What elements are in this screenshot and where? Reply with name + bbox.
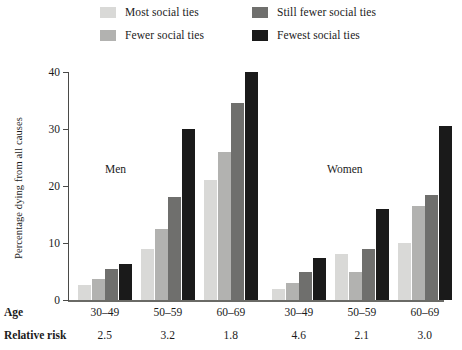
- age-cell: 60–69: [410, 306, 439, 318]
- y-axis-tick: [63, 72, 69, 73]
- bar: [412, 206, 425, 300]
- bar: [335, 254, 348, 300]
- risk-row-header: Relative risk: [4, 329, 66, 341]
- x-axis-line: [68, 300, 444, 302]
- y-axis-tick: [63, 300, 69, 301]
- y-axis-title: Percentage dying from all causes: [13, 74, 27, 302]
- relative-risk-cell: 3.2: [161, 329, 175, 341]
- age-cell: 60–69: [216, 306, 245, 318]
- legend-label: Fewer social ties: [125, 30, 204, 41]
- bar: [155, 229, 168, 300]
- y-axis-tick-label: 40: [49, 67, 61, 78]
- bar: [141, 249, 154, 300]
- legend-label: Still fewer social ties: [277, 7, 376, 18]
- relative-risk-cell: 1.8: [224, 329, 238, 341]
- bar: [349, 272, 362, 301]
- panel-label-women: Women: [327, 163, 362, 175]
- plot-area: Percentage dying from all causes 0102030…: [69, 72, 444, 300]
- bar: [376, 209, 389, 300]
- bar: [218, 152, 231, 300]
- legend-swatch-icon: [100, 7, 116, 18]
- age-row-header: Age: [4, 306, 23, 318]
- panel-label-men: Men: [105, 163, 126, 175]
- bar: [398, 243, 411, 300]
- legend-item: Fewest social ties: [252, 30, 360, 41]
- relative-risk-cell: 2.5: [98, 329, 112, 341]
- bar-group: [141, 72, 195, 300]
- legend-label: Fewest social ties: [277, 30, 360, 41]
- legend-item: Fewer social ties: [100, 30, 204, 41]
- y-axis-tick-label: 0: [54, 295, 60, 306]
- chart-figure: Most social tiesFewer social tiesStill f…: [0, 0, 462, 350]
- bar: [272, 289, 285, 300]
- bar: [425, 195, 438, 300]
- bar: [439, 126, 452, 300]
- bar: [168, 197, 181, 300]
- relative-risk-cell: 2.1: [355, 329, 369, 341]
- bar: [204, 180, 217, 300]
- legend-item: Still fewer social ties: [252, 7, 376, 18]
- age-cell: 30–49: [90, 306, 119, 318]
- legend-swatch-icon: [252, 30, 268, 41]
- legend-item: Most social ties: [100, 7, 199, 18]
- bar-group: [272, 72, 326, 300]
- y-axis-tick: [63, 243, 69, 244]
- bar: [245, 72, 258, 300]
- bar: [78, 285, 91, 300]
- bar-group: [204, 72, 258, 300]
- legend-swatch-icon: [100, 30, 116, 41]
- y-axis-tick: [63, 186, 69, 187]
- bar: [231, 103, 244, 300]
- bar: [92, 279, 105, 300]
- bar: [313, 258, 326, 300]
- legend: Most social tiesFewer social tiesStill f…: [100, 6, 450, 50]
- bar-group: [398, 72, 452, 300]
- bar: [182, 129, 195, 300]
- y-axis-tick-label: 30: [49, 124, 61, 135]
- age-cell: 50–59: [153, 306, 182, 318]
- bar-group: [78, 72, 132, 300]
- bar-group: [335, 72, 389, 300]
- legend-swatch-icon: [252, 7, 268, 18]
- y-axis-tick: [63, 129, 69, 130]
- bar: [362, 249, 375, 300]
- relative-risk-cell: 3.0: [418, 329, 432, 341]
- y-axis-tick-label: 10: [49, 238, 61, 249]
- bar: [286, 283, 299, 300]
- bar: [105, 269, 118, 300]
- relative-risk-cell: 4.6: [292, 329, 306, 341]
- age-cell: 30–49: [284, 306, 313, 318]
- bar: [299, 272, 312, 301]
- bar: [119, 264, 132, 300]
- age-cell: 50–59: [347, 306, 376, 318]
- legend-label: Most social ties: [125, 7, 199, 18]
- y-axis-tick-label: 20: [49, 181, 61, 192]
